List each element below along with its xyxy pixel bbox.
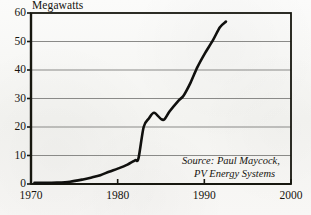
gridlines [31, 42, 291, 156]
x-tick-label: 2000 [269, 190, 311, 202]
x-tick-label: 1990 [182, 190, 226, 202]
chart-container: Megawatts 6050403020100 Source: Paul May… [0, 0, 311, 215]
x-tick-label: 1970 [9, 190, 53, 202]
x-tick-label: 1980 [96, 190, 140, 202]
plot-area [0, 0, 311, 215]
source-annotation: Source: Paul Maycock, PV Energy Systems [182, 155, 280, 180]
source-line-2: PV Energy Systems [182, 168, 280, 181]
source-line-1: Source: Paul Maycock, [182, 155, 280, 166]
